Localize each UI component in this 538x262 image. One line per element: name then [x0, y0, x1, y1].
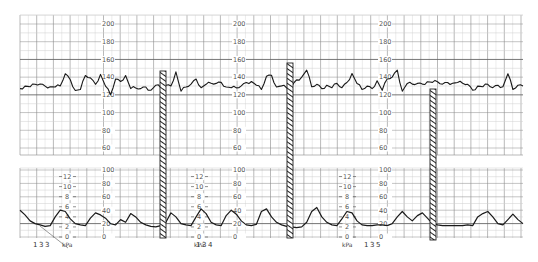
svg-text:80: 80	[233, 127, 241, 135]
svg-text:80: 80	[102, 127, 110, 135]
svg-text:80: 80	[102, 180, 110, 188]
svg-text:100: 100	[233, 166, 245, 174]
svg-text:80: 80	[379, 180, 387, 188]
svg-text:12: 12	[63, 173, 71, 181]
svg-text:8: 8	[197, 193, 201, 201]
svg-text:2: 2	[197, 223, 201, 231]
svg-text:133: 133	[33, 241, 51, 249]
svg-text:160: 160	[379, 56, 391, 64]
fhr-grid	[20, 15, 523, 155]
svg-text:140: 140	[102, 73, 114, 81]
svg-text:10: 10	[63, 183, 71, 191]
svg-text:0: 0	[233, 233, 237, 241]
svg-text:12: 12	[343, 173, 351, 181]
svg-text:20: 20	[102, 220, 110, 228]
fhr-trace	[20, 70, 523, 95]
event-marker-bar	[287, 63, 293, 238]
svg-text:180: 180	[102, 38, 114, 46]
svg-text:60: 60	[379, 193, 387, 201]
svg-text:140: 140	[233, 73, 245, 81]
svg-text:2: 2	[65, 223, 69, 231]
svg-text:200: 200	[379, 20, 391, 28]
svg-text:80: 80	[233, 180, 241, 188]
svg-text:120: 120	[102, 91, 114, 99]
svg-text:kPa: kPa	[194, 241, 205, 248]
svg-text:100: 100	[379, 109, 391, 117]
event-marker-bar	[160, 71, 166, 238]
svg-text:0: 0	[102, 233, 106, 241]
svg-text:200: 200	[102, 20, 114, 28]
svg-text:160: 160	[233, 56, 245, 64]
svg-text:kPa: kPa	[342, 241, 353, 248]
svg-text:120: 120	[379, 91, 391, 99]
svg-text:200: 200	[233, 20, 245, 28]
svg-text:60: 60	[233, 193, 241, 201]
svg-text:60: 60	[102, 144, 110, 152]
ctg-chart: 2001801601401201008060100806040200200180…	[0, 0, 538, 262]
svg-text:100: 100	[379, 166, 391, 174]
svg-text:6: 6	[345, 203, 349, 211]
svg-text:135: 135	[364, 241, 382, 249]
svg-text:20: 20	[379, 220, 387, 228]
svg-text:80: 80	[379, 127, 387, 135]
svg-text:100: 100	[102, 109, 114, 117]
svg-text:10: 10	[343, 183, 351, 191]
ua-trace	[20, 208, 523, 228]
svg-text:8: 8	[65, 193, 69, 201]
svg-text:40: 40	[102, 207, 110, 215]
svg-text:60: 60	[233, 144, 241, 152]
svg-text:60: 60	[102, 193, 110, 201]
svg-text:12: 12	[195, 173, 203, 181]
ua-grid	[20, 168, 523, 238]
svg-text:40: 40	[379, 207, 387, 215]
svg-text:140: 140	[379, 73, 391, 81]
svg-text:100: 100	[102, 166, 114, 174]
svg-text:20: 20	[233, 220, 241, 228]
svg-text:8: 8	[345, 193, 349, 201]
event-marker-bar	[430, 89, 436, 240]
svg-text:180: 180	[233, 38, 245, 46]
svg-text:100: 100	[233, 109, 245, 117]
svg-text:2: 2	[345, 223, 349, 231]
svg-text:180: 180	[379, 38, 391, 46]
svg-text:120: 120	[233, 91, 245, 99]
svg-text:10: 10	[195, 183, 203, 191]
svg-text:60: 60	[379, 144, 387, 152]
svg-text:6: 6	[65, 203, 69, 211]
svg-text:160: 160	[102, 56, 114, 64]
